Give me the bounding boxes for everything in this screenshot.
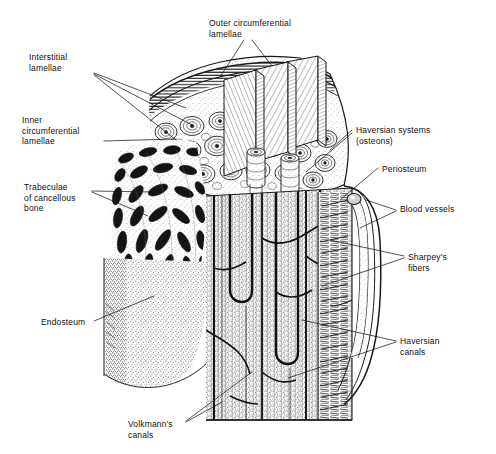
label-interstitial-lamellae: Interstitial lamellae <box>29 52 67 73</box>
label-sharpeys-fibers: Sharpey's fibers <box>408 252 447 273</box>
compact-bone-column <box>206 188 352 420</box>
bone-illustration <box>0 0 496 454</box>
label-blood-vessels: Blood vessels <box>400 204 454 215</box>
label-haversian-canals: Haversian canals <box>400 336 440 357</box>
label-inner-circumferential-lamellae: Inner circumferential lamellae <box>22 115 80 147</box>
label-haversian-systems: Haversian systems (osteons) <box>356 125 430 146</box>
osteon-cylinder-left <box>247 148 265 194</box>
label-periosteum: Periosteum <box>382 164 427 175</box>
endosteum-surface <box>100 258 214 392</box>
bone-structure-diagram: Outer circumferential lamellae Interstit… <box>0 0 496 454</box>
label-trabeculae-of-cancellous-bone: Trabeculae of cancellous bone <box>24 182 76 214</box>
label-volkmanns-canals: Volkmann's canals <box>128 419 173 440</box>
label-outer-circumferential-lamellae: Outer circumferential lamellae <box>209 18 291 39</box>
label-endosteum: Endosteum <box>41 317 85 328</box>
